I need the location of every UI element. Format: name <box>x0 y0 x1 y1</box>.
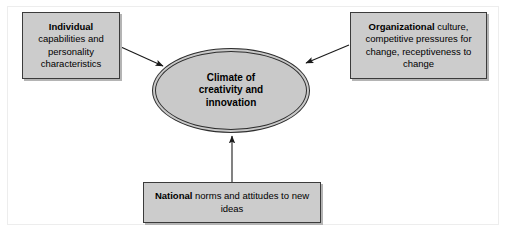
center-node-label-line-1: Climate of <box>199 72 263 85</box>
node-national[interactable]: National norms and attitudes to new idea… <box>143 182 321 223</box>
diagram-canvas: Individual capabilities and personality … <box>0 0 508 232</box>
node-organizational-emphasis: Organizational <box>369 21 435 32</box>
node-individual[interactable]: Individual capabilities and personality … <box>22 12 120 79</box>
node-individual-text: Individual capabilities and personality … <box>27 21 115 70</box>
node-national-rest: norms and attitudes to new ideas <box>192 190 309 213</box>
arrow-individual-to-climate <box>121 47 163 66</box>
center-node-label-line-2: creativity and <box>199 84 263 97</box>
arrow-organizational-to-climate <box>306 45 349 63</box>
node-national-emphasis: National <box>155 190 192 201</box>
node-individual-emphasis: Individual <box>49 21 93 32</box>
center-node-label-line-3: innovation <box>199 97 263 110</box>
center-node-climate[interactable]: Climate of creativity and innovation <box>152 48 310 133</box>
node-organizational[interactable]: Organizational culture, competitive pres… <box>350 12 487 79</box>
node-individual-rest: capabilities and personality characteris… <box>38 33 104 69</box>
center-node-label: Climate of creativity and innovation <box>199 72 263 110</box>
node-national-text: National norms and attitudes to new idea… <box>148 190 316 215</box>
node-organizational-text: Organizational culture, competitive pres… <box>355 21 482 70</box>
